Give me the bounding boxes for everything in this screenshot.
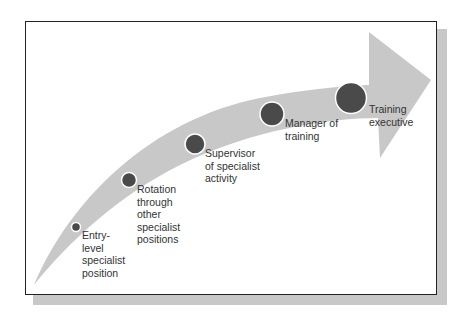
stage-node-4 <box>260 102 284 126</box>
stage-node-2 <box>122 173 137 188</box>
stage-label-entry-level: Entry- level specialist position <box>82 229 125 279</box>
stage-node-5 <box>336 83 367 114</box>
stage-node-3 <box>185 134 205 154</box>
stage-label-rotation: Rotation through other specialist positi… <box>137 183 180 246</box>
stage-label-supervisor: Supervisor of specialist activity <box>205 147 260 185</box>
stage-node-1 <box>72 223 81 232</box>
stage-label-executive: Training executive <box>369 103 413 128</box>
stage-label-manager: Manager of training <box>285 117 338 142</box>
